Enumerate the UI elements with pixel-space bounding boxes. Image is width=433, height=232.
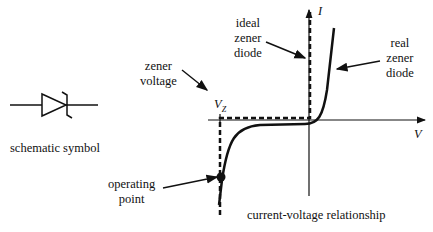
ideal-diode-label: ideal zener diode — [234, 16, 262, 61]
label-line: real — [386, 36, 414, 51]
real-diode-label: real zener diode — [386, 36, 414, 81]
vz-v: V — [214, 97, 222, 111]
y-axis-label: I — [318, 4, 322, 19]
x-axis-label: V — [414, 127, 422, 142]
label-line: ideal — [234, 16, 262, 31]
vz-sub: Z — [222, 105, 226, 114]
label-line: zener — [234, 31, 262, 46]
graph-caption: current-voltage relationship — [247, 208, 386, 223]
label-line: operating — [108, 177, 155, 192]
label-line: voltage — [140, 74, 177, 89]
annotation-arrows — [163, 42, 380, 188]
label-line: point — [108, 192, 155, 207]
zener-voltage-label: zener voltage — [140, 59, 177, 89]
label-line: diode — [386, 66, 414, 81]
label-line: zener — [140, 59, 177, 74]
operating-point-marker — [217, 173, 226, 182]
label-line: zener — [386, 51, 414, 66]
zener-symbol-icon — [10, 92, 98, 118]
label-line: diode — [234, 46, 262, 61]
operating-point-label: operating point — [108, 177, 155, 207]
vz-label: VZ — [214, 97, 226, 117]
symbol-caption: schematic symbol — [10, 141, 100, 156]
